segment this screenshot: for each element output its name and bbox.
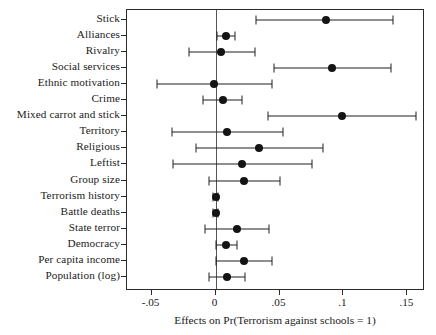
ci-cap-upper: [271, 80, 272, 89]
category-label: Battle deaths: [0, 206, 120, 217]
estimate-point-marker: [210, 80, 218, 88]
y-axis-tick: [121, 19, 126, 20]
y-axis-tick: [121, 67, 126, 68]
category-label: Crime: [0, 93, 120, 104]
x-axis-tick: [342, 290, 343, 295]
ci-cap-lower: [268, 112, 269, 121]
category-label: Group size: [0, 174, 120, 185]
category-label: Population (log): [0, 270, 120, 281]
x-axis-tick-label: .15: [399, 296, 413, 308]
ci-cap-upper: [311, 160, 312, 169]
ci-cap-lower: [216, 32, 217, 41]
x-axis-tick: [279, 290, 280, 295]
estimate-row: [127, 205, 423, 221]
x-axis-tick-label: .05: [272, 296, 286, 308]
x-axis-tick-label: 0: [212, 296, 218, 308]
ci-cap-lower: [215, 256, 216, 265]
y-axis-tick: [121, 99, 126, 100]
estimate-point-marker: [219, 96, 227, 104]
estimate-row: [127, 28, 423, 44]
estimate-point-marker: [212, 193, 220, 201]
category-label-column: StickAlliancesRivalrySocial servicesEthn…: [0, 0, 120, 290]
y-axis-tick: [121, 244, 126, 245]
plot-area: [127, 10, 423, 289]
y-axis-tick: [121, 115, 126, 116]
category-label: Ethnic motivation: [0, 77, 120, 88]
y-axis-tick: [121, 83, 126, 84]
ci-cap-lower: [209, 272, 210, 281]
category-label: Territory: [0, 125, 120, 136]
ci-cap-upper: [283, 128, 284, 137]
estimate-row: [127, 108, 423, 124]
estimate-point-marker: [217, 48, 225, 56]
ci-cap-upper: [323, 144, 324, 153]
estimate-row: [127, 124, 423, 140]
estimate-row: [127, 60, 423, 76]
estimate-row: [127, 156, 423, 172]
ci-cap-lower: [274, 64, 275, 73]
estimate-row: [127, 237, 423, 253]
x-axis-tick-label: -.05: [142, 296, 160, 308]
category-label: Social services: [0, 61, 120, 72]
category-label: Stick: [0, 13, 120, 24]
y-axis-tick: [121, 180, 126, 181]
y-axis-tick: [121, 131, 126, 132]
estimate-row: [127, 253, 423, 269]
ci-cap-lower: [209, 176, 210, 185]
estimate-row: [127, 269, 423, 285]
estimate-point-marker: [238, 160, 246, 168]
ci-cap-lower: [156, 80, 157, 89]
x-axis-tick: [215, 290, 216, 295]
y-axis-tick: [121, 163, 126, 164]
ci-cap-lower: [205, 224, 206, 233]
y-axis-tick: [121, 196, 126, 197]
category-label: Terrorism history: [0, 190, 120, 201]
x-axis-tick-label: .1: [338, 296, 346, 308]
category-label: Mixed carrot and stick: [0, 109, 120, 120]
estimate-row: [127, 12, 423, 28]
estimate-point-marker: [255, 144, 263, 152]
ci-cap-upper: [271, 256, 272, 265]
ci-cap-lower: [188, 48, 189, 57]
y-axis-tick: [121, 228, 126, 229]
ci-cap-upper: [234, 32, 235, 41]
estimate-point-marker: [223, 273, 231, 281]
category-label: Rivalry: [0, 45, 120, 56]
ci-cap-lower: [173, 160, 174, 169]
ci-cap-upper: [255, 48, 256, 57]
estimate-row: [127, 221, 423, 237]
estimate-row: [127, 92, 423, 108]
x-axis-title: Effects on Pr(Terrorism against schools …: [126, 314, 424, 327]
y-axis-tick: [121, 35, 126, 36]
ci-cap-lower: [215, 240, 216, 249]
category-label: Per capita income: [0, 254, 120, 265]
estimate-row: [127, 189, 423, 205]
ci-cap-lower: [196, 144, 197, 153]
x-axis-tick: [406, 290, 407, 295]
ci-cap-upper: [416, 112, 417, 121]
ci-cap-upper: [393, 15, 394, 24]
category-label: Alliances: [0, 29, 120, 40]
category-label: State terror: [0, 222, 120, 233]
category-label: Leftist: [0, 157, 120, 168]
coefficient-plot-figure: StickAlliancesRivalrySocial servicesEthn…: [0, 0, 436, 335]
estimate-point-marker: [223, 128, 231, 136]
category-label: Religious: [0, 141, 120, 152]
estimate-point-marker: [222, 32, 230, 40]
estimate-row: [127, 76, 423, 92]
estimate-point-marker: [240, 257, 248, 265]
estimate-point-marker: [328, 64, 336, 72]
plot-frame: [126, 9, 424, 290]
ci-cap-lower: [256, 15, 257, 24]
ci-cap-upper: [237, 240, 238, 249]
estimate-point-marker: [240, 177, 248, 185]
ci-cap-upper: [242, 96, 243, 105]
ci-cap-upper: [269, 224, 270, 233]
ci-cap-upper: [279, 176, 280, 185]
y-axis-tick: [121, 51, 126, 52]
estimate-row: [127, 44, 423, 60]
y-axis-tick: [121, 147, 126, 148]
category-label: Democracy: [0, 238, 120, 249]
y-axis-tick: [121, 260, 126, 261]
estimate-point-marker: [233, 225, 241, 233]
